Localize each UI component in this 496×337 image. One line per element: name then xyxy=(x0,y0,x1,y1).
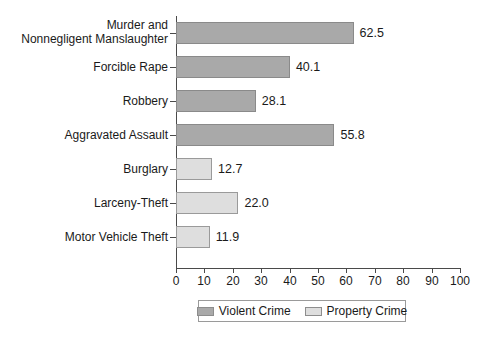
chart-legend: Violent Crime Property Crime xyxy=(198,300,406,322)
bar[interactable] xyxy=(176,158,212,180)
category-label: Robbery xyxy=(123,94,168,108)
legend-item-property-crime[interactable]: Property Crime xyxy=(305,305,408,318)
legend-swatch-icon xyxy=(305,307,322,316)
category-label: Aggravated Assault xyxy=(65,128,168,142)
x-axis-tick xyxy=(290,268,291,273)
x-axis-tick xyxy=(403,268,404,273)
bar-value-label: 40.1 xyxy=(296,60,320,74)
bar-value-label: 11.9 xyxy=(216,230,239,244)
x-axis-tick xyxy=(375,268,376,273)
x-axis-tick xyxy=(204,268,205,273)
y-axis-tick xyxy=(170,33,176,34)
x-axis-tick xyxy=(233,268,234,273)
bar[interactable] xyxy=(176,90,256,112)
bar-value-label: 22.0 xyxy=(244,196,268,210)
category-label-line: Motor Vehicle Theft xyxy=(65,230,168,244)
x-axis-tick xyxy=(261,268,262,273)
x-axis-tick xyxy=(460,268,461,273)
category-label-line: Nonnegligent Manslaughter xyxy=(21,32,168,46)
gridline xyxy=(346,22,347,268)
gridline xyxy=(375,22,376,268)
x-axis-tick xyxy=(318,268,319,273)
category-label-line: Larceny-Theft xyxy=(94,196,168,210)
category-label: Motor Vehicle Theft xyxy=(65,230,168,244)
bar[interactable] xyxy=(176,124,334,146)
gridline xyxy=(403,22,404,268)
bar[interactable] xyxy=(176,192,238,214)
bar-value-label: 12.7 xyxy=(218,162,242,176)
category-label-line: Robbery xyxy=(123,94,168,108)
category-label-line: Burglary xyxy=(123,162,168,176)
bar[interactable] xyxy=(176,22,354,44)
chart-container: 0102030405060708090100 Violent Crime Pro… xyxy=(0,0,496,337)
y-axis-tick xyxy=(170,67,176,68)
legend-label: Violent Crime xyxy=(219,305,291,318)
legend-item-violent-crime[interactable]: Violent Crime xyxy=(197,305,291,318)
category-label-line: Aggravated Assault xyxy=(65,128,168,142)
category-label: Burglary xyxy=(123,162,168,176)
legend-swatch-icon xyxy=(197,307,214,316)
category-label-line: Forcible Rape xyxy=(93,60,168,74)
x-axis-tick xyxy=(346,268,347,273)
bar-value-label: 55.8 xyxy=(340,128,364,142)
category-label: Larceny-Theft xyxy=(94,196,168,210)
x-axis-tick xyxy=(176,268,177,273)
y-axis-tick xyxy=(170,101,176,102)
y-axis-tick xyxy=(170,169,176,170)
x-axis-tick xyxy=(432,268,433,273)
y-axis-tick xyxy=(170,203,176,204)
category-label-line: Murder and xyxy=(21,18,168,32)
legend-label: Property Crime xyxy=(327,305,408,318)
category-label: Murder andNonnegligent Manslaughter xyxy=(21,18,168,46)
y-axis-tick xyxy=(170,237,176,238)
gridline xyxy=(460,22,461,268)
gridline xyxy=(432,22,433,268)
bar-value-label: 28.1 xyxy=(262,94,286,108)
bar-value-label: 62.5 xyxy=(360,26,384,40)
x-axis-tick-label: 100 xyxy=(440,274,480,288)
bar[interactable] xyxy=(176,56,290,78)
y-axis-tick xyxy=(170,135,176,136)
bar[interactable] xyxy=(176,226,210,248)
category-label: Forcible Rape xyxy=(93,60,168,74)
